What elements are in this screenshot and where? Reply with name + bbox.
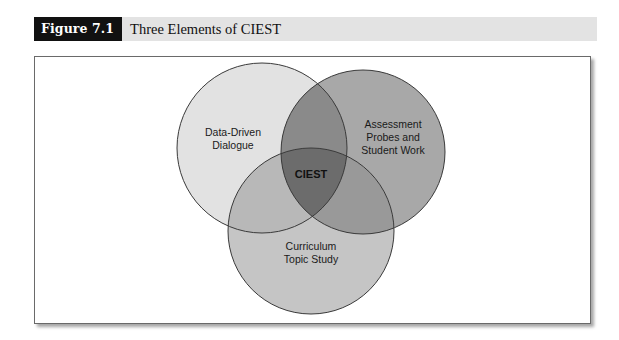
label-apsw-line2: Probes and bbox=[366, 131, 420, 143]
label-center-ciest: CIEST bbox=[295, 168, 328, 180]
label-cts-line1: Curriculum bbox=[286, 240, 337, 252]
label-cts-line2: Topic Study bbox=[284, 253, 339, 265]
label-ddd-line2: Dialogue bbox=[212, 139, 254, 151]
label-ddd-line1: Data-Driven bbox=[205, 126, 261, 138]
label-apsw-line3: Student Work bbox=[361, 144, 425, 156]
venn-diagram: Data-Driven Dialogue Assessment Probes a… bbox=[0, 0, 619, 340]
label-apsw-line1: Assessment bbox=[364, 118, 421, 130]
